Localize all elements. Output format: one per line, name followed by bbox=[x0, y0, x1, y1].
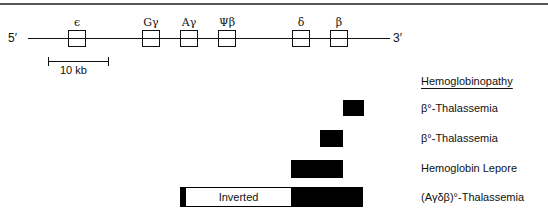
gene-label-beta: β bbox=[324, 17, 354, 28]
deletion-bar-beta0-1 bbox=[343, 100, 364, 116]
gene-label-psi-beta: Ψβ bbox=[212, 17, 242, 28]
three-prime-label: 3′ bbox=[393, 32, 402, 44]
deletion-bar-lepore bbox=[291, 160, 343, 178]
gene-label-g-gamma: Gγ bbox=[136, 17, 166, 28]
five-prime-label: 5′ bbox=[8, 32, 17, 44]
gene-box-g-gamma bbox=[142, 30, 160, 47]
scale-bar bbox=[48, 61, 108, 62]
row-label-beta0-2: β°-Thalassemia bbox=[421, 133, 498, 144]
row-label-lepore: Hemoglobin Lepore bbox=[421, 163, 517, 174]
scale-tick-right bbox=[108, 57, 109, 66]
gene-box-epsilon bbox=[68, 30, 86, 47]
inverted-segment: Inverted bbox=[186, 187, 291, 207]
row-label-agdb: (Aγδβ)°-Thalassemia bbox=[421, 192, 524, 203]
gene-box-beta bbox=[330, 30, 348, 47]
top-border bbox=[0, 3, 548, 5]
gene-label-delta: δ bbox=[286, 17, 316, 28]
gene-box-psi-beta bbox=[218, 30, 236, 47]
deletion-bar-beta0-2 bbox=[320, 130, 343, 147]
gene-box-delta bbox=[292, 30, 310, 47]
gene-label-a-gamma: Aγ bbox=[174, 17, 204, 28]
row-label-beta0-1: β°-Thalassemia bbox=[421, 103, 498, 114]
gene-label-epsilon: ϵ bbox=[62, 17, 92, 28]
gene-box-a-gamma bbox=[180, 30, 198, 47]
legend-header: Hemoglobinopathy bbox=[421, 76, 513, 87]
scale-bar-label: 10 kb bbox=[60, 65, 87, 76]
deletion-bar-agdb-right bbox=[291, 187, 363, 207]
